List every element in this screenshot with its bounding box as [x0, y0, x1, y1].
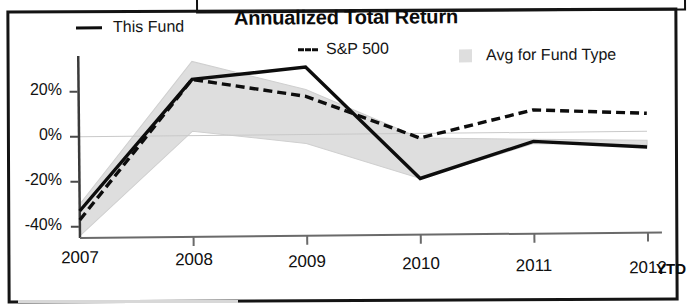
x-axis-line: [80, 232, 662, 238]
chart-plot-svg: [0, 0, 692, 305]
chart-screenshot: Annualized Total Return This Fund S&P 50…: [0, 0, 692, 305]
plot-area: [0, 0, 692, 305]
avg-fund-type-band: [78, 57, 648, 236]
